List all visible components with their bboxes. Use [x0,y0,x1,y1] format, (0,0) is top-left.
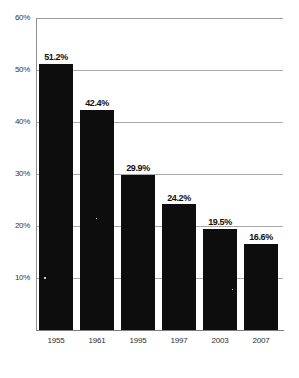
bar-series: 51.2% 42.4% 29.9% 24.2% 19.5% 16.6% [36,18,283,330]
y-tick-label-50: 50% [15,66,30,74]
bar-group-2007: 16.6% [244,18,278,330]
bar-group-1961: 42.4% [80,18,114,330]
y-tick-label-10: 10% [15,274,30,282]
bar-label-1997: 24.2% [167,193,191,203]
scan-speck [44,277,46,279]
y-tick-label-30: 30% [15,170,30,178]
x-axis-line [36,330,284,331]
bar-group-1995: 29.9% [121,18,155,330]
bar-1997[interactable] [162,204,196,330]
bar-group-1997: 24.2% [162,18,196,330]
bar-2003[interactable] [203,229,237,330]
x-axis-labels: 1955 1961 1995 1997 2003 2007 [36,336,283,356]
x-tick-label-1995: 1995 [130,336,147,345]
x-tick-label-1961: 1961 [89,336,106,345]
bar-1955[interactable] [39,64,73,330]
bar-1995[interactable] [121,175,155,330]
bar-label-1955: 51.2% [44,52,68,62]
x-tick-label-2003: 2003 [212,336,229,345]
bar-1961[interactable] [80,110,114,330]
scan-speck [232,289,233,290]
bar-group-1955: 51.2% [39,18,73,330]
bar-label-1995: 29.9% [126,163,150,173]
y-tick-label-20: 20% [15,222,30,230]
bar-chart: 60% 50% 40% 30% 20% 10% 51.2% 42.4% 29.9… [0,0,299,378]
y-tick-label-60: 60% [15,14,30,22]
y-axis-labels: 60% 50% 40% 30% 20% 10% [0,0,33,378]
y-tick-label-40: 40% [15,118,30,126]
bar-label-1961: 42.4% [85,98,109,108]
bar-2007[interactable] [244,244,278,330]
x-tick-label-1955: 1955 [48,336,65,345]
bar-label-2007: 16.6% [249,232,273,242]
bar-label-2003: 19.5% [208,217,232,227]
x-tick-label-1997: 1997 [171,336,188,345]
x-tick-label-2007: 2007 [253,336,270,345]
scan-speck [96,218,97,219]
bar-group-2003: 19.5% [203,18,237,330]
